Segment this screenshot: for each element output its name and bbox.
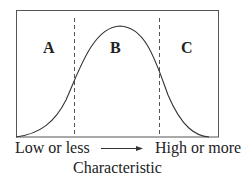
axis-title: Characteristic xyxy=(73,160,162,176)
region-label-c: C xyxy=(181,40,193,56)
plot-frame xyxy=(17,11,219,138)
axis-high-label: High or more xyxy=(155,140,241,156)
right-arrow-icon xyxy=(136,146,143,151)
axis-low-label: Low or less xyxy=(15,140,90,156)
bell-curve-diagram xyxy=(0,0,250,184)
region-label-a: A xyxy=(43,40,55,56)
region-label-b: B xyxy=(110,40,121,56)
